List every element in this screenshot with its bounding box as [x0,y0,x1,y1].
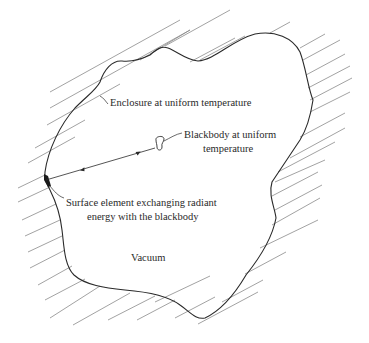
enclosure-label: Enclosure at uniform temperature [110,96,251,109]
diagram-canvas [0,0,369,343]
enclosure-leader-line [100,96,108,104]
surface-leader-line [50,186,64,198]
surface-element-label-line2: energy with the blackbody [87,210,199,223]
blackbody-label-line1: Blackbody at uniform [184,128,276,141]
arrowhead-toward-blackbody [136,151,142,156]
surface-element [44,174,51,187]
blackbody-label-line2: temperature [203,142,253,155]
vacuum-label: Vacuum [131,251,165,264]
surface-element-label-line1: Surface element exchanging radiant [66,196,217,209]
blackbody-leader-line [164,133,182,141]
enclosure-outline [45,33,313,318]
blackbody-object [156,136,164,150]
